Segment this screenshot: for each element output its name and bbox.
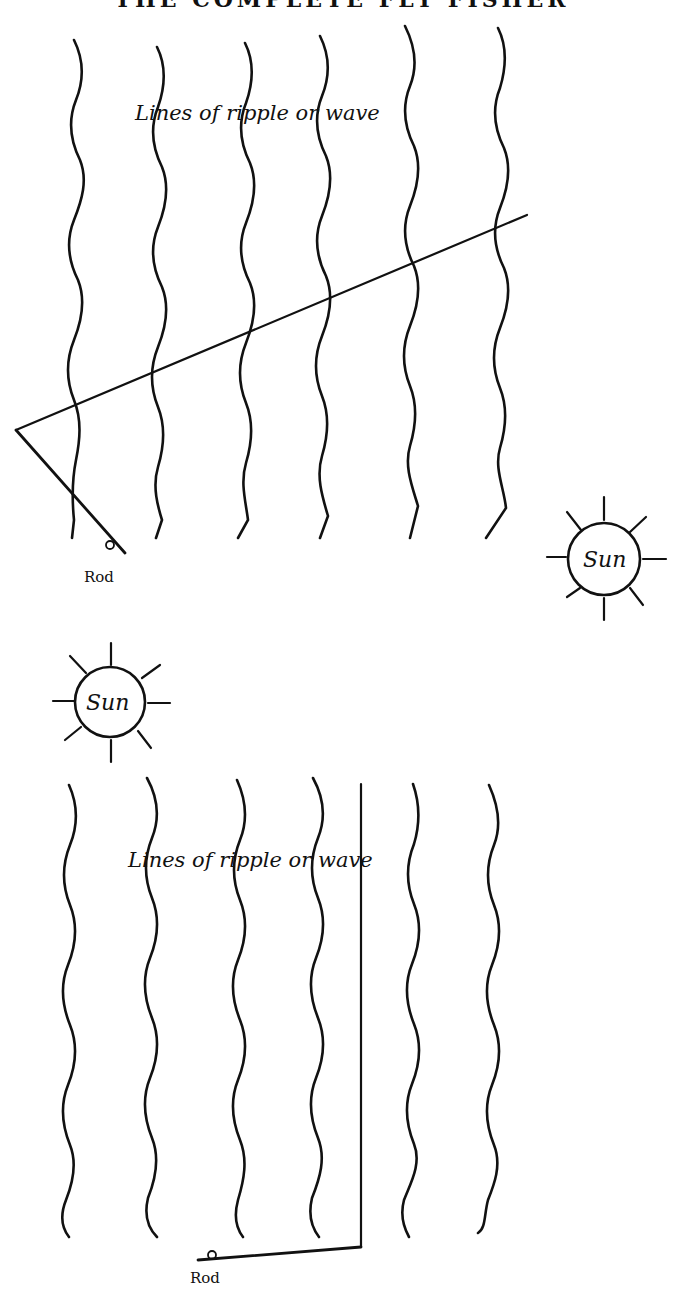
fishing-line-top [16, 215, 527, 430]
rod-label-top: Rod [84, 568, 114, 586]
rod-reel-top [106, 541, 114, 549]
rod-bottom [198, 1247, 361, 1260]
ripple-line [402, 784, 419, 1237]
fly-fishing-diagrams: Lines of ripple or wave Rod Sun [0, 0, 684, 1300]
ripple-line [486, 28, 508, 538]
ripple-line [478, 785, 499, 1233]
ripple-label-top: Lines of ripple or wave [134, 101, 380, 125]
ripple-lines-bottom [62, 778, 499, 1237]
sun-label-top: Sun [583, 547, 626, 572]
ripple-line [145, 778, 157, 1237]
ripple-line [62, 785, 75, 1237]
sun-label-bottom: Sun [86, 690, 129, 715]
book-page: THE COMPLETE FLY FISHER Lines of ripple … [0, 0, 684, 1300]
rod-label-bottom: Rod [190, 1269, 220, 1287]
sun-top: Sun [547, 497, 666, 620]
sun-bottom: Sun [53, 643, 170, 762]
figure-top: Lines of ripple or wave Rod Sun [16, 26, 666, 620]
figure-bottom: Sun Lines of ripple or wave Rod [53, 643, 499, 1287]
ripple-line [68, 40, 84, 538]
ripple-line [310, 778, 323, 1237]
rod-top [16, 430, 125, 553]
ripple-label-bottom: Lines of ripple or wave [127, 848, 373, 872]
ripple-line [404, 26, 418, 538]
